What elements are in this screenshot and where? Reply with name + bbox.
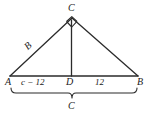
segment-label-db: 12 [95, 78, 104, 87]
side-cb-line [72, 18, 138, 76]
vertex-label-c: C [68, 3, 75, 13]
vertex-label-b: B [137, 77, 143, 87]
base-brace [11, 88, 137, 98]
segment-label-ad: c − 12 [21, 78, 45, 87]
side-ac-line [10, 18, 72, 76]
base-total-label: C [68, 101, 75, 111]
vertex-label-a: A [5, 77, 11, 87]
vertex-label-d: D [66, 77, 73, 87]
geometry-figure: A B C D B c − 12 12 C [0, 0, 149, 117]
